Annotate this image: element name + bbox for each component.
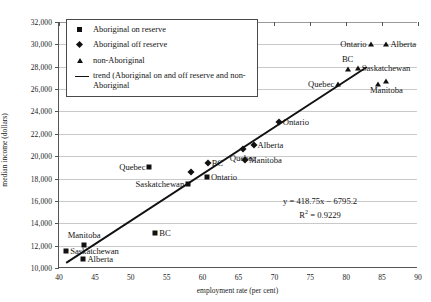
x-tick-mark	[418, 22, 419, 26]
x-tick-label: 50	[127, 267, 135, 282]
diamond-marker-icon	[75, 40, 93, 47]
data-point-label: Ontario	[211, 173, 237, 182]
line-glyph	[75, 76, 89, 77]
data-point-triangle	[383, 42, 389, 47]
data-point-label: Manitoba	[68, 231, 101, 240]
data-point-square	[82, 243, 87, 248]
x-tick-label: 65	[235, 267, 243, 282]
legend-item-line: trend (Aboriginal on and off reserve and…	[75, 71, 250, 91]
scatter-chart: median income (dollars) employment rate …	[0, 0, 431, 302]
data-point-label: Saskatchewan	[362, 64, 411, 73]
data-point-triangle	[335, 81, 341, 86]
x-tick-label: 55	[163, 267, 171, 282]
data-point-label: Quebec	[119, 163, 145, 172]
x-tick-label: 40	[55, 267, 63, 282]
legend-item-triangle: non-Aboriginal	[75, 56, 250, 66]
square-marker-icon	[75, 25, 93, 32]
data-point-label: Alberta	[258, 141, 284, 150]
x-axis-title: employment rate (per cent)	[58, 286, 417, 295]
square-glyph	[77, 27, 82, 32]
legend-item-label: Aboriginal on reserve	[93, 25, 250, 35]
x-tick-label: 80	[342, 267, 350, 282]
x-tick-label: 90	[414, 267, 422, 282]
legend-item-label: trend (Aboriginal on and off reserve and…	[93, 71, 250, 91]
triangle-glyph	[77, 58, 83, 63]
legend-item-diamond: Aboriginal off reserve	[75, 40, 250, 50]
x-tick-label: 60	[199, 267, 207, 282]
data-point-label: BC	[342, 55, 353, 64]
x-tick-label: 45	[91, 267, 99, 282]
legend-item-square: Aboriginal on reserve	[75, 25, 250, 35]
data-point-label: Saskatchewan	[136, 180, 185, 189]
r-squared-text: R2 = 0.9229	[283, 208, 357, 221]
data-point-label: Quebec	[308, 79, 334, 88]
line-marker-icon	[75, 71, 93, 77]
data-point-square	[81, 257, 86, 262]
y-axis-title: median income (dollars)	[0, 113, 9, 186]
data-point-square	[204, 175, 209, 180]
data-point-label: Alberta	[390, 40, 416, 49]
data-point-label: Ontario	[340, 40, 366, 49]
data-point-square	[147, 165, 152, 170]
data-point-label: Quebec	[230, 154, 256, 163]
r-value: = 0.9229	[310, 209, 341, 219]
data-point-triangle	[368, 42, 374, 47]
data-point-triangle	[355, 66, 361, 71]
chart-legend: Aboriginal on reserveAboriginal off rese…	[66, 19, 258, 97]
r-exponent: 2	[305, 209, 308, 215]
data-point-label: Ontario	[283, 118, 309, 127]
data-point-label: Manitoba	[370, 86, 403, 95]
legend-item-label: non-Aboriginal	[93, 56, 250, 66]
data-point-square	[186, 182, 191, 187]
data-point-triangle	[345, 66, 351, 71]
data-point-square	[153, 230, 158, 235]
data-point-square	[64, 249, 69, 254]
data-point-label: BC	[159, 228, 170, 237]
trendline-equation: y = 418.75x − 6795.2 R2 = 0.9229	[283, 196, 357, 221]
x-tick-label: 70	[271, 267, 279, 282]
diamond-glyph	[76, 41, 83, 48]
data-point-label: BC	[212, 159, 223, 168]
x-tick-label: 85	[378, 267, 386, 282]
x-tick-label: 75	[307, 267, 315, 282]
triangle-marker-icon	[75, 56, 93, 63]
legend-item-label: Aboriginal off reserve	[93, 40, 250, 50]
equation-text: y = 418.75x − 6795.2	[283, 196, 357, 208]
data-point-triangle	[383, 78, 389, 83]
data-point-label: Alberta	[87, 255, 113, 264]
clipped-caption	[0, 0, 431, 9]
